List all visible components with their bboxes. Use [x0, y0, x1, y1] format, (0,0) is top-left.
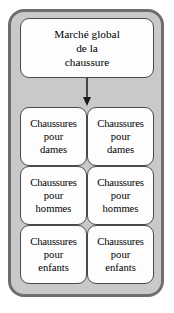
- node-shoes-women-left: Chaussures pour dames: [20, 107, 87, 166]
- node-line-2: pour: [111, 189, 130, 202]
- node-global-shoe-market: Marché global de la chaussure: [20, 18, 154, 78]
- down-arrow-icon: [80, 78, 94, 107]
- market-segmentation-diagram: Marché global de la chaussure Chaussures…: [0, 0, 174, 313]
- node-line-2: pour: [111, 248, 130, 261]
- node-line-3: dames: [40, 143, 67, 156]
- node-line-2: de la: [76, 41, 98, 55]
- node-line-3: hommes: [36, 202, 72, 215]
- node-shoes-men-right: Chaussures pour hommes: [87, 166, 154, 225]
- node-line-1: Chaussures: [30, 235, 76, 248]
- node-line-3: enfants: [105, 261, 136, 274]
- node-shoes-men-left: Chaussures pour hommes: [20, 166, 87, 225]
- node-line-1: Chaussures: [97, 235, 143, 248]
- segment-grid: Chaussures pour dames Chaussures pour da…: [20, 107, 154, 284]
- node-shoes-women-right: Chaussures pour dames: [87, 107, 154, 166]
- node-line-3: dames: [107, 143, 134, 156]
- node-line-3: hommes: [103, 202, 139, 215]
- node-shoes-children-left: Chaussures pour enfants: [20, 225, 87, 284]
- node-line-3: enfants: [38, 261, 69, 274]
- node-line-3: chaussure: [65, 55, 110, 69]
- node-line-2: pour: [44, 248, 63, 261]
- node-shoes-children-right: Chaussures pour enfants: [87, 225, 154, 284]
- node-line-2: pour: [44, 130, 63, 143]
- node-line-1: Chaussures: [30, 117, 76, 130]
- node-line-1: Marché global: [54, 27, 120, 41]
- node-line-2: pour: [44, 189, 63, 202]
- node-line-1: Chaussures: [30, 176, 76, 189]
- node-line-2: pour: [111, 130, 130, 143]
- node-line-1: Chaussures: [97, 117, 143, 130]
- node-line-1: Chaussures: [97, 176, 143, 189]
